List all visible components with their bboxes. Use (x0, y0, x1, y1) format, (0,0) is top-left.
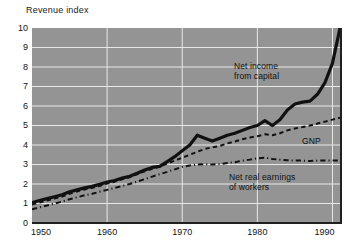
axis-frame-right (340, 28, 342, 224)
annotation-net-real-earnings-of-workers: Net real earnings of workers (229, 172, 295, 192)
y-axis-tick-label: 5 (6, 121, 28, 130)
x-axis-tick-label: 1990 (314, 228, 334, 237)
y-axis-tick-label: 8 (6, 63, 28, 72)
axis-frame-bottom (32, 222, 342, 224)
annotation-gnp: GNP (302, 136, 321, 146)
x-axis-tick-label: 1950 (31, 228, 51, 237)
y-axis-tick-label: 3 (6, 160, 28, 169)
y-axis-tick-label: 9 (6, 43, 28, 52)
gridlines (32, 28, 340, 223)
annotation-net-income-from-capital: Net income from capital (234, 61, 279, 81)
series-layer (32, 28, 340, 223)
y-axis-tick-label: 4 (6, 141, 28, 150)
y-axis-tick-label: 0 (6, 219, 28, 228)
revenue-index-chart: Revenue index 012345678910 1950196019701… (0, 0, 354, 251)
x-axis-tick-label: 1980 (247, 228, 267, 237)
y-axis-tick-label: 1 (6, 199, 28, 208)
y-axis-tick-label: 7 (6, 82, 28, 91)
plot-area (32, 28, 340, 223)
y-axis-tick-label: 10 (6, 24, 28, 33)
chart-title: Revenue index (26, 5, 89, 15)
x-axis-tick-label: 1970 (172, 228, 192, 237)
y-axis-tick-label: 2 (6, 180, 28, 189)
y-axis-tick-label: 6 (6, 102, 28, 111)
x-axis-tick-label: 1960 (97, 228, 117, 237)
